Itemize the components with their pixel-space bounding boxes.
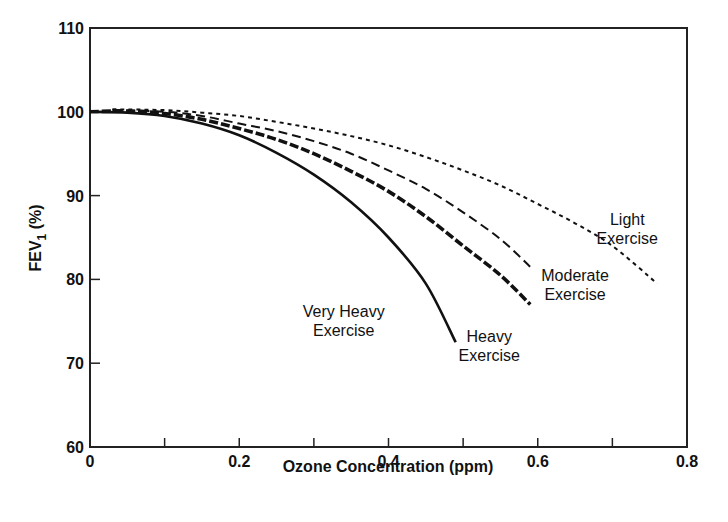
y-axis-title-main: FEV — [27, 240, 44, 271]
curve-annotations: Very HeavyExerciseHeavyExerciseModerateE… — [303, 211, 658, 364]
curve-label: HeavyExercise — [459, 328, 520, 364]
x-tick-label: 0.2 — [228, 453, 250, 470]
fev1-ozone-chart: 00.20.40.60.8 60708090100110 Very HeavyE… — [0, 0, 728, 522]
curve-label: Very HeavyExercise — [303, 303, 385, 339]
y-tick-label: 80 — [66, 271, 84, 288]
x-tick-label: 0.8 — [676, 453, 698, 470]
series-very-heavy-exercise — [90, 112, 456, 342]
curve-label: LightExercise — [597, 211, 658, 247]
series-moderate-exercise — [112, 110, 530, 267]
x-tick-label: 0 — [86, 453, 95, 470]
y-tick-label: 60 — [66, 439, 84, 456]
y-tick-label: 110 — [58, 20, 84, 37]
y-tick-label: 90 — [66, 188, 84, 205]
y-tick-label: 100 — [57, 104, 84, 121]
x-axis-title: Ozone Concentration (ppm) — [283, 458, 494, 475]
series-light-exercise — [112, 109, 657, 283]
x-tick-label: 0.6 — [527, 453, 549, 470]
y-axis-ticks: 60708090100110 — [57, 20, 100, 456]
y-tick-label: 70 — [66, 355, 84, 372]
y-axis-title-suffix: (%) — [27, 204, 44, 233]
y-axis-title: FEV1 (%) — [27, 204, 49, 271]
curve-label: ModerateExercise — [541, 267, 609, 303]
